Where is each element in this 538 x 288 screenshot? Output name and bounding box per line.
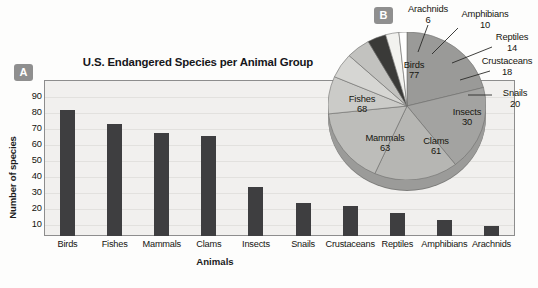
pie-callout-name: Reptiles: [496, 31, 528, 42]
x-tick-label-snails: Snails: [291, 238, 315, 250]
pie-slice-name: Mammals: [365, 132, 404, 143]
x-tick-label-amphibians: Amphibians: [421, 238, 467, 250]
pie-callout-reptiles: Reptiles 14: [496, 32, 528, 53]
y-tick-label: 30: [14, 188, 42, 197]
pie-slice-value: 77: [409, 69, 419, 80]
x-tick-label-clams: Clams: [196, 238, 221, 250]
pie-slice-label-fishes: Fishes 68: [349, 94, 375, 115]
pie-chart-panel: Birds 77 Fishes 68 Mammals 63 Clams 61 I…: [300, 0, 538, 215]
bar-arachnids: [484, 226, 499, 236]
y-tick-label: 90: [14, 92, 42, 101]
bar-insects: [248, 187, 263, 236]
y-tick-label: 20: [14, 204, 42, 213]
x-tick-label-mammals: Mammals: [143, 238, 181, 250]
y-tick-label: 50: [14, 156, 42, 165]
bar-amphibians: [437, 220, 452, 236]
x-tick-label-fishes: Fishes: [102, 238, 128, 250]
pie-callout-snails: Snails 20: [503, 88, 527, 109]
x-tick-label-crustaceans: Crustaceans: [325, 238, 374, 250]
pie-slice-value: 61: [431, 145, 441, 156]
pie-callout-name: Snails: [503, 87, 527, 98]
pie-slice-label-mammals: Mammals 63: [365, 133, 404, 154]
pie-slice-label-insects: Insects 30: [453, 107, 481, 128]
pie-callout-value: 14: [496, 43, 528, 54]
bar-reptiles: [390, 213, 405, 236]
pie-callout-value: 10: [462, 20, 509, 31]
panel-badge-b: B: [374, 7, 393, 24]
pie-slice-name: Clams: [423, 135, 449, 146]
panel-badge-a: A: [14, 64, 33, 81]
pie-slice-label-birds: Birds 77: [404, 60, 424, 81]
bar-chart-x-axis-ticks: BirdsFishesMammalsClamsInsectsSnailsCrus…: [44, 238, 515, 254]
pie-callout-value: 6: [408, 15, 448, 26]
pie-callout-name: Crustaceans: [482, 55, 532, 66]
pie-slice-value: 68: [357, 103, 367, 114]
x-tick-label-arachnids: Arachnids: [472, 238, 511, 250]
pie-callout-crustaceans: Crustaceans 18: [482, 56, 532, 77]
pie-callout-value: 20: [503, 99, 527, 110]
pie-slice-value: 63: [380, 142, 390, 153]
bar-chart-y-axis-ticks: 90 80 70 60 50 40 30 20 10: [12, 80, 42, 236]
y-tick-label: 60: [14, 140, 42, 149]
bar-fishes: [107, 124, 122, 236]
figure-root: U.S. Endangered Species per Animal Group…: [0, 0, 538, 288]
x-tick-label-insects: Insects: [242, 238, 270, 250]
y-tick-label: 70: [14, 124, 42, 133]
y-tick-label: 10: [14, 220, 42, 229]
y-tick-label: 40: [14, 172, 42, 181]
pie-callout-name: Arachnids: [408, 3, 448, 14]
pie-callout-value: 18: [482, 67, 532, 78]
bar-mammals: [154, 133, 169, 236]
y-tick-label: 80: [14, 108, 42, 117]
bar-birds: [60, 110, 75, 236]
pie-slice-name: Birds: [404, 59, 424, 70]
pie-callout-name: Amphibians: [462, 8, 509, 19]
pie-slice-value: 30: [462, 116, 472, 127]
pie-callout-arachnids: Arachnids 6: [408, 4, 448, 25]
bar-clams: [201, 136, 216, 236]
pie-slice-label-clams: Clams 61: [423, 136, 449, 157]
bar-chart-x-axis-label: Animals: [140, 256, 290, 267]
pie-chart-graphic: Birds 77 Fishes 68 Mammals 63 Clams 61 I…: [328, 28, 486, 193]
pie-callout-amphibians: Amphibians 10: [462, 9, 509, 30]
pie-slice-name: Insects: [453, 106, 481, 117]
pie-slice-name: Fishes: [349, 93, 375, 104]
x-tick-label-reptiles: Reptiles: [381, 238, 413, 250]
x-tick-label-birds: Birds: [58, 238, 78, 250]
